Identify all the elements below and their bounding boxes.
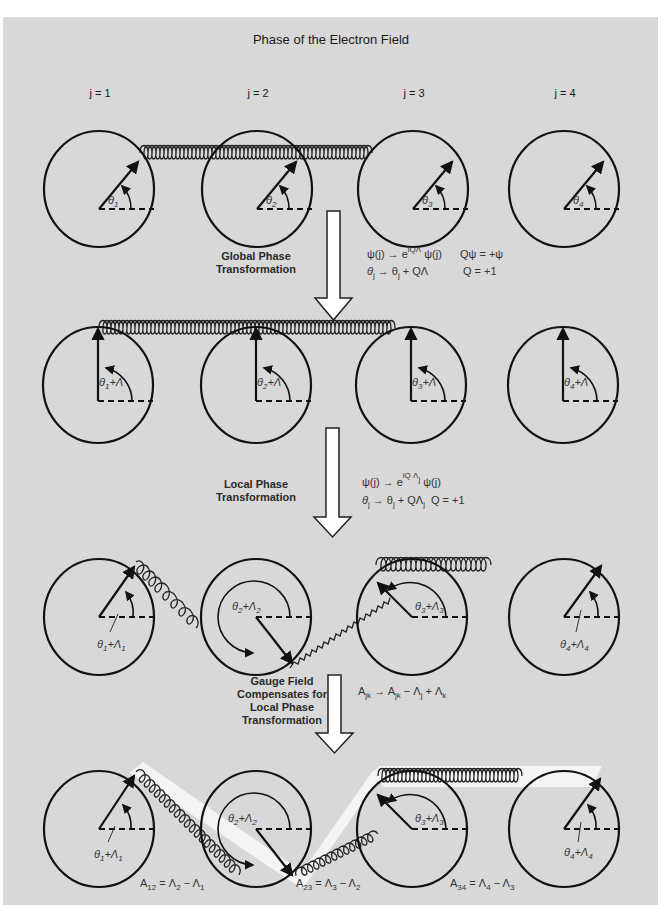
angle-label: θ4+Λ4 (560, 638, 589, 653)
angle-label: θ1+Λ1 (94, 848, 123, 863)
svg-text:Global Phase: Global Phase (221, 250, 291, 262)
angle-label: θ3+Λ3 (415, 600, 444, 615)
angle-label: θ3 (422, 194, 433, 209)
site-4-phase: θ4+Λ4 (509, 559, 619, 675)
svg-text:Transformation: Transformation (216, 263, 296, 275)
angle-label: θ4+Λ (564, 376, 588, 391)
angle-label: θ1+Λ1 (97, 638, 126, 653)
transform-arrow-global (315, 211, 352, 320)
site-1-phase: θ1+Λ1 (44, 771, 154, 887)
angle-label: θ3+Λ (412, 376, 436, 391)
site-2-phase: θ2+Λ2 (201, 771, 311, 887)
site-3-phase: θ3+Λ3 (357, 559, 467, 675)
angle-label: θ2 (266, 194, 277, 209)
gauge-field-A34: A34 = Λ4 − Λ3 (450, 877, 515, 892)
svg-text:Local Phase: Local Phase (224, 478, 288, 490)
electron-phase-diagram: Phase of the Electron Field j = 1 j = 2 … (0, 0, 663, 913)
svg-text:Ajk → Ajk − Λj + Λk: Ajk → Ajk − Λj + Λk (358, 685, 447, 700)
gauge-coil-row1 (140, 146, 372, 160)
step-local-label: Local Phase Transformation (216, 478, 296, 503)
site-4-phase: θ4 (509, 131, 619, 247)
gauge-field-A12: A12 = Λ2 − Λ1 (140, 877, 205, 892)
angle-label: θ1+Λ (99, 376, 123, 391)
row-global: θ1+Λ θ2+Λ θ3+Λ θ4+Λ (43, 321, 618, 444)
svg-text:Qψ = +ψ: Qψ = +ψ (460, 248, 503, 260)
svg-text:Compensates for: Compensates for (237, 688, 328, 700)
step-local-equations: ψ(j) → eiQ Λj ψ(j) θj → θj + QΛjQ = +1 (362, 471, 465, 509)
transform-arrow-local (314, 428, 351, 537)
svg-text:ψ(j) → eiQ Λj ψ(j): ψ(j) → eiQ Λj ψ(j) (362, 471, 441, 488)
svg-text:Transformation: Transformation (242, 714, 322, 726)
svg-text:Gauge Field: Gauge Field (251, 675, 314, 687)
site-labels: j = 1 j = 2 j = 3 j = 4 (88, 87, 575, 99)
site-3-phase: θ3+Λ (356, 327, 466, 443)
angle-label: θ2+Λ (257, 376, 281, 391)
row-local: θ1+Λ1 θ2+Λ2 θ3+Λ3 θ4+Λ4 (44, 558, 619, 676)
row-gauge: θ1+Λ1 θ2+Λ2 θ3+Λ3 θ4+Λ4 (44, 762, 619, 888)
site-4-phase: θ4+Λ4 (509, 771, 619, 887)
angle-label: θ3+Λ3 (415, 812, 444, 827)
step-gauge-label: Gauge Field Compensates for Local Phase … (237, 675, 328, 726)
diagram-title: Phase of the Electron Field (253, 32, 409, 47)
angle-label: θ4+Λ4 (564, 846, 593, 861)
gauge-field-labels: A12 = Λ2 − Λ1 A23 = Λ3 − Λ2 A34 = Λ4 − Λ… (140, 877, 515, 892)
gauge-band-12 (130, 762, 302, 882)
site-label-2: j = 2 (246, 87, 268, 99)
site-1-phase: θ1+Λ1 (44, 559, 154, 675)
site-label-4: j = 4 (553, 87, 575, 99)
svg-text:Local Phase: Local Phase (250, 701, 314, 713)
site-label-1: j = 1 (88, 87, 110, 99)
site-1-phase: θ1 (44, 131, 154, 247)
angle-label: θ2+Λ2 (232, 600, 261, 615)
site-3-phase: θ3+Λ3 (357, 771, 467, 887)
gauge-coil-row3-a (136, 561, 198, 628)
site-3-phase: θ3 (358, 131, 468, 247)
step-global-label: Global Phase Transformation (216, 250, 296, 275)
angle-label: θ4 (573, 194, 584, 209)
step-global-equations: ψ(j) → eiQΛ ψ(j) Qψ = +ψ θj → θj + QΛ Q … (367, 245, 503, 280)
svg-text:θj → θj + QΛjQ = +1: θj → θj + QΛjQ = +1 (362, 494, 465, 509)
svg-text:θj → θj + QΛ: θj → θj + QΛ (367, 265, 429, 280)
site-label-3: j = 3 (402, 87, 424, 99)
angle-label: θ1 (108, 194, 118, 209)
site-2-phase: θ2+Λ2 (201, 559, 311, 675)
gauge-coil-row3-b (290, 598, 390, 668)
site-1-phase: θ1+Λ (43, 327, 153, 443)
svg-text:Transformation: Transformation (216, 491, 296, 503)
site-4-phase: θ4+Λ (508, 327, 618, 443)
step-gauge-equation: Ajk → Ajk − Λj + Λk (358, 685, 447, 700)
svg-text:Q = +1: Q = +1 (463, 265, 497, 277)
svg-text:ψ(j) → eiQΛ ψ(j): ψ(j) → eiQΛ ψ(j) (367, 245, 442, 260)
site-2-phase: θ2+Λ (201, 327, 311, 443)
